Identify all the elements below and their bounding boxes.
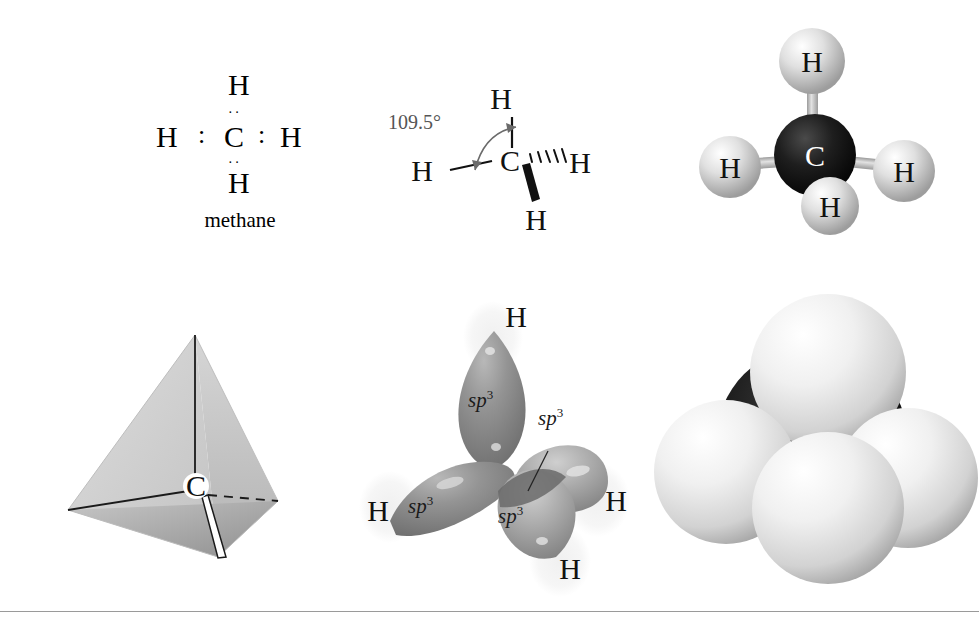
- bond-carbon-left-hydrogen: [450, 161, 492, 170]
- orbital-hydrogen-right: H: [605, 484, 627, 517]
- lewis-top-hydrogen: H: [228, 70, 250, 100]
- space-filling-hydrogen-front: [752, 432, 904, 584]
- lewis-left-hydrogen: H: [156, 122, 178, 152]
- ball-and-stick-svg: H H H C H: [690, 15, 970, 240]
- hashed-wedge-bond: [530, 149, 566, 162]
- wedge-dash-svg: 109.5° H H C H H: [380, 75, 650, 250]
- bottom-divider-rule: [0, 611, 979, 612]
- wedge-carbon: C: [500, 144, 520, 177]
- methane-caption: methane: [140, 208, 340, 233]
- bond-angle-label: 109.5°: [388, 111, 441, 133]
- lewis-structure-panel: H ·· H : C : H ·· H methane: [120, 70, 360, 260]
- space-filling-panel: [680, 290, 979, 595]
- sp3-label-right: sp3: [538, 405, 563, 430]
- sp3-lobe-top-highlight: [485, 347, 495, 355]
- wedge-bottom-hydrogen: H: [525, 203, 547, 236]
- tetra-face-bottom: [68, 501, 278, 557]
- lewis-grid: H ·· H : C : H ·· H methane: [140, 70, 340, 210]
- sp3-lobe-top-highlight2: [491, 443, 501, 451]
- lewis-bottom-hydrogen: H: [228, 168, 250, 198]
- ball-and-stick-panel: H H H C H: [690, 15, 970, 240]
- sp3-orbitals-svg: sp3 sp3 sp3 sp3 H H H H: [370, 295, 690, 600]
- bond-angle-arrowhead-bottom: [472, 160, 482, 170]
- methane-structures-figure: H ·· H : C : H ·· H methane: [0, 0, 979, 625]
- hydrogen-label-left: H: [719, 151, 741, 184]
- lewis-carbon: C: [224, 122, 244, 152]
- tetrahedron-svg: C: [30, 305, 330, 595]
- sp3-lobe-front-highlight: [536, 537, 548, 545]
- hydrogen-label-right: H: [893, 155, 915, 188]
- orbital-hydrogen-top: H: [505, 300, 527, 333]
- tetrahedron-panel: C: [30, 305, 330, 595]
- wedge-hashed-hydrogen: H: [569, 146, 591, 179]
- carbon-label: C: [805, 139, 825, 172]
- hydrogen-label-front: H: [819, 190, 841, 223]
- lewis-top-electron-pair: ··: [228, 106, 241, 120]
- wedge-top-hydrogen: H: [490, 82, 512, 115]
- orbital-hydrogen-left: H: [367, 494, 389, 527]
- lewis-right-electron-pair: :: [258, 122, 265, 148]
- solid-wedge-bond: [522, 163, 540, 202]
- orbital-hydrogen-bottom: H: [559, 552, 581, 585]
- wedge-dash-panel: 109.5° H H C H H: [380, 75, 650, 250]
- space-filling-svg: [680, 290, 979, 595]
- sp3-orbitals-panel: sp3 sp3 sp3 sp3 H H H H: [370, 295, 690, 600]
- hydrogen-label-top: H: [801, 45, 823, 78]
- wedge-left-hydrogen: H: [411, 154, 433, 187]
- tetra-carbon-label: C: [186, 469, 206, 502]
- lewis-left-electron-pair: :: [198, 122, 205, 148]
- lewis-right-hydrogen: H: [280, 122, 302, 152]
